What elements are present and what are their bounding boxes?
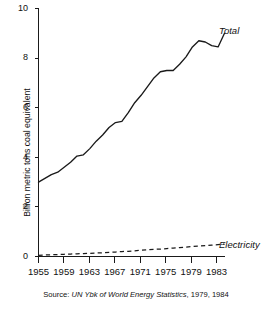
x-axis-ticks — [39, 257, 217, 263]
y-axis-ticks — [35, 9, 39, 257]
chart-plot-area — [0, 0, 272, 309]
y-tick-label-8: 8 — [12, 53, 28, 62]
source-prefix: Source: — [43, 290, 69, 299]
series-label-electricity: Electricity — [219, 240, 260, 250]
source-note: Source: UN Ybk of World Energy Statistic… — [0, 290, 272, 299]
chart-figure: 10 8 6 4 2 0 1955 1959 1963 1967 1971 19… — [0, 0, 272, 309]
x-tick-label-1983: 1983 — [202, 267, 232, 276]
series-line-total — [39, 33, 225, 182]
y-tick-label-0: 0 — [12, 252, 28, 261]
series-line-electricity — [39, 244, 225, 255]
source-title: UN Ybk of World Energy Statistics — [71, 290, 186, 299]
source-years: , 1979, 1984 — [187, 290, 229, 299]
series-label-total: Total — [219, 26, 239, 36]
y-axis-label: Billion metric tons coal equivalent — [23, 68, 32, 238]
y-tick-label-10: 10 — [12, 4, 28, 13]
